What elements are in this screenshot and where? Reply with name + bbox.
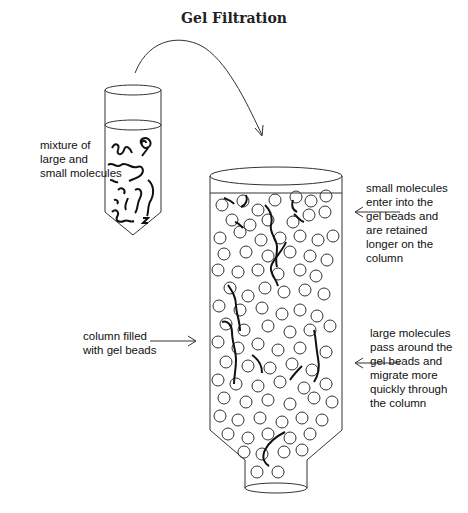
chromatography-column-icon bbox=[210, 167, 342, 493]
label-mixture: mixture of large and small molecules bbox=[40, 138, 122, 180]
gel-beads bbox=[212, 190, 339, 478]
label-column-filled: column filled with gel beads bbox=[83, 329, 157, 357]
label-large-molecules: large molecules pass around the gel bead… bbox=[370, 326, 452, 410]
label-small-molecules: small molecules enter into the gel beads… bbox=[366, 181, 448, 265]
